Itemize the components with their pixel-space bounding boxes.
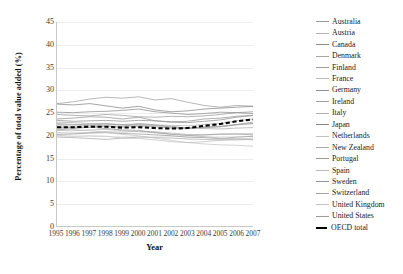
legend-item-portugal[interactable]: Portugal [316, 153, 403, 164]
legend-label: Switzerland [332, 189, 369, 197]
legend-item-france[interactable]: France [316, 73, 403, 84]
legend-item-united-kingdom[interactable]: United Kingdom [316, 199, 403, 210]
x-axis-title: Year [56, 243, 253, 252]
legend-item-new-zealand[interactable]: New Zealand [316, 142, 403, 153]
legend-item-austria[interactable]: Austria [316, 27, 403, 38]
legend-swatch-icon [316, 216, 329, 217]
legend-item-netherlands[interactable]: Netherlands [316, 130, 403, 141]
legend-swatch-icon [316, 147, 329, 148]
legend-swatch-icon [316, 193, 329, 194]
legend-label: Spain [332, 167, 350, 175]
y-axis-tick-20: 20 [24, 132, 54, 140]
y-axis-tick-40: 40 [24, 41, 54, 49]
legend-label: Germany [332, 86, 361, 94]
legend-label: Netherlands [332, 132, 370, 140]
x-axis-tick-1995: 1995 [49, 229, 64, 238]
legend-label: Austria [332, 29, 355, 37]
legend-swatch-icon [316, 204, 329, 205]
series-lines [57, 22, 253, 226]
series-line-japan [57, 104, 253, 112]
legend-label: OECD total [331, 224, 368, 232]
x-axis-tick-1999: 1999 [114, 229, 129, 238]
legend-label: Finland [332, 64, 356, 72]
legend-item-australia[interactable]: Australia [316, 16, 403, 27]
legend-swatch-icon [316, 227, 327, 229]
legend-label: Canada [332, 41, 355, 49]
series-line-germany [57, 115, 253, 122]
legend-swatch-icon [316, 181, 329, 182]
legend-swatch-icon [316, 44, 329, 45]
x-axis-tick-2007: 2007 [246, 229, 261, 238]
legend-item-sweden[interactable]: Sweden [316, 176, 403, 187]
series-line-ireland [57, 97, 253, 107]
x-axis-tick-2004: 2004 [196, 229, 211, 238]
plot-area [56, 22, 253, 227]
lines-svg [57, 22, 253, 226]
legend-label: Denmark [332, 52, 361, 60]
y-axis-tick-15: 15 [24, 155, 54, 163]
x-axis-tick-2002: 2002 [164, 229, 179, 238]
chart-legend: AustraliaAustriaCanadaDenmarkFinlandFran… [316, 16, 403, 233]
legend-swatch-icon [316, 33, 329, 34]
legend-item-canada[interactable]: Canada [316, 39, 403, 50]
legend-label: Ireland [332, 98, 354, 106]
legend-swatch-icon [316, 124, 329, 125]
legend-label: Sweden [332, 178, 357, 186]
y-axis-tick-35: 35 [24, 64, 54, 72]
legend-swatch-icon [316, 56, 329, 57]
legend-swatch-icon [316, 136, 329, 137]
legend-swatch-icon [316, 21, 329, 22]
legend-item-italy[interactable]: Italy [316, 108, 403, 119]
legend-swatch-icon [316, 113, 329, 114]
y-axis-tick-10: 10 [24, 177, 54, 185]
series-line-united-kingdom [57, 128, 253, 146]
legend-label: United Kingdom [332, 201, 385, 209]
legend-item-japan[interactable]: Japan [316, 119, 403, 130]
legend-item-germany[interactable]: Germany [316, 85, 403, 96]
legend-swatch-icon [316, 67, 329, 68]
series-line-netherlands [57, 135, 253, 142]
y-axis-tick-30: 30 [24, 86, 54, 94]
x-axis-tick-2006: 2006 [229, 229, 244, 238]
x-axis-tick-2005: 2005 [213, 229, 228, 238]
x-axis-tick-2000: 2000 [131, 229, 146, 238]
legend-label: France [332, 75, 353, 83]
legend-item-denmark[interactable]: Denmark [316, 50, 403, 61]
y-axis-tick-25: 25 [24, 109, 54, 117]
legend-swatch-icon [316, 158, 329, 159]
y-axis-tick-45: 45 [24, 18, 54, 26]
legend-label: United States [332, 212, 374, 220]
legend-item-united-states[interactable]: United States [316, 210, 403, 221]
x-axis-tick-1998: 1998 [98, 229, 113, 238]
x-axis-tick-1997: 1997 [81, 229, 96, 238]
legend-label: New Zealand [332, 144, 374, 152]
legend-swatch-icon [316, 78, 329, 79]
legend-item-ireland[interactable]: Ireland [316, 96, 403, 107]
legend-item-spain[interactable]: Spain [316, 165, 403, 176]
legend-item-finland[interactable]: Finland [316, 62, 403, 73]
legend-label: Japan [332, 121, 350, 129]
legend-label: Italy [332, 109, 346, 117]
legend-swatch-icon [316, 170, 329, 171]
x-axis-tick-labels: 1995199619971998199920002001200220032004… [56, 229, 253, 241]
x-axis-tick-1996: 1996 [65, 229, 80, 238]
y-axis-tick-5: 5 [24, 200, 54, 208]
chart-figure: Percentage of total value added (%) 0510… [0, 0, 403, 274]
legend-label: Portugal [332, 155, 358, 163]
legend-swatch-icon [316, 90, 329, 91]
x-axis-tick-2003: 2003 [180, 229, 195, 238]
legend-item-oecd-total[interactable]: OECD total [316, 222, 403, 233]
legend-swatch-icon [316, 101, 329, 102]
legend-label: Australia [332, 18, 361, 26]
x-axis-tick-2001: 2001 [147, 229, 162, 238]
legend-item-switzerland[interactable]: Switzerland [316, 188, 403, 199]
